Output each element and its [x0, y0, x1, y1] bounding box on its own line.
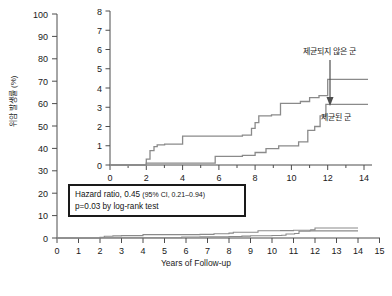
svg-text:9: 9 — [248, 246, 253, 256]
svg-text:12: 12 — [310, 246, 320, 256]
svg-text:10: 10 — [286, 173, 296, 183]
svg-text:4: 4 — [180, 173, 185, 183]
svg-text:60: 60 — [38, 99, 48, 109]
svg-text:8: 8 — [97, 7, 102, 17]
svg-text:3: 3 — [119, 246, 124, 256]
svg-text:10: 10 — [267, 246, 277, 256]
svg-text:50: 50 — [38, 122, 48, 132]
svg-text:0: 0 — [97, 161, 102, 171]
svg-text:5: 5 — [162, 246, 167, 256]
hazard-ratio-line: Hazard ratio, 0.45 (95% CI, 0.21–0.94) — [75, 189, 239, 201]
svg-text:14: 14 — [359, 173, 369, 183]
inset-curve-non-eradicated — [110, 79, 368, 165]
svg-text:100: 100 — [33, 10, 48, 20]
hazard-ratio-value: Hazard ratio, 0.45 — [75, 190, 142, 199]
svg-text:4: 4 — [140, 246, 145, 256]
svg-text:80: 80 — [38, 54, 48, 64]
svg-text:2: 2 — [144, 173, 149, 183]
inset-y-ticks — [106, 11, 111, 165]
svg-text:12: 12 — [323, 173, 333, 183]
svg-text:6: 6 — [97, 45, 102, 55]
svg-text:8: 8 — [253, 173, 258, 183]
curve-label-non-eradicated: 제균되지 않은 군 — [303, 45, 356, 56]
main-x-tick-labels: 0 1 2 3 4 5 6 7 8 9 10 11 12 13 14 15 — [54, 246, 384, 256]
svg-text:7: 7 — [205, 246, 210, 256]
main-y-tick-labels: 100 90 80 70 60 50 40 30 20 10 0 — [33, 10, 48, 244]
svg-text:5: 5 — [97, 64, 102, 74]
inset-y-tick-labels: 8 7 6 5 4 3 2 1 0 — [97, 7, 102, 171]
main-x-axis-label: Years of Follow-up — [0, 258, 392, 268]
svg-text:0: 0 — [54, 246, 59, 256]
main-y-ticks — [52, 14, 57, 238]
svg-text:1: 1 — [97, 141, 102, 151]
svg-text:30: 30 — [38, 166, 48, 176]
svg-text:3: 3 — [97, 103, 102, 113]
main-x-ticks — [57, 238, 380, 243]
svg-text:0: 0 — [43, 234, 48, 244]
svg-text:6: 6 — [216, 173, 221, 183]
svg-text:6: 6 — [183, 246, 188, 256]
curve-label-eradicated: 제균된 군 — [321, 111, 351, 122]
svg-text:0: 0 — [107, 173, 112, 183]
svg-text:40: 40 — [38, 144, 48, 154]
inset-chart: 8 7 6 5 4 3 2 1 0 — [97, 7, 372, 184]
svg-text:20: 20 — [38, 189, 48, 199]
p-value-line: p=0.03 by log-rank test — [75, 201, 239, 213]
hazard-ratio-ci: (95% CI, 0.21–0.94) — [142, 191, 205, 198]
svg-text:4: 4 — [97, 84, 102, 94]
svg-text:13: 13 — [331, 246, 341, 256]
svg-text:7: 7 — [97, 26, 102, 36]
svg-text:1: 1 — [76, 246, 81, 256]
inset-x-ticks — [110, 165, 364, 170]
svg-text:11: 11 — [289, 246, 298, 256]
svg-text:8: 8 — [226, 246, 231, 256]
svg-text:15: 15 — [374, 246, 384, 256]
svg-text:2: 2 — [97, 246, 102, 256]
svg-text:10: 10 — [38, 211, 48, 221]
svg-text:14: 14 — [353, 246, 363, 256]
svg-text:70: 70 — [38, 77, 48, 87]
inset-x-tick-labels: 0 2 4 6 8 10 12 14 — [107, 173, 369, 183]
svg-text:2: 2 — [97, 122, 102, 132]
main-y-axis-label: 위암 발생률 (%) — [7, 62, 18, 142]
hazard-ratio-box: Hazard ratio, 0.45 (95% CI, 0.21–0.94) p… — [68, 184, 246, 217]
svg-text:90: 90 — [38, 32, 48, 42]
